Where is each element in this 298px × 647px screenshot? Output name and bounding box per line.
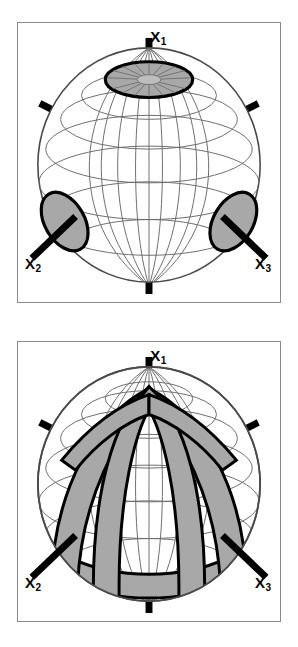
panel-girdle-bands: X1 X2 X3 xyxy=(17,341,281,622)
sphere-diagram-point-maxima xyxy=(18,23,280,302)
figure-root: X1 X2 X3 xyxy=(0,0,298,647)
axis-label-x2: X2 xyxy=(25,575,41,593)
panel-point-maxima: X1 X2 X3 xyxy=(17,22,281,303)
axis-label-x1: X1 xyxy=(150,29,166,47)
polar-cap-inner-ring xyxy=(137,75,161,85)
panel-bottom-stage xyxy=(18,342,280,621)
axis-label-x2: X2 xyxy=(25,256,41,274)
axis-label-x3: X3 xyxy=(255,575,271,593)
axis-label-x1: X1 xyxy=(150,348,166,366)
panel-top-stage xyxy=(18,23,280,302)
sphere-diagram-girdle-bands xyxy=(18,342,280,621)
axis-label-x3: X3 xyxy=(255,256,271,274)
